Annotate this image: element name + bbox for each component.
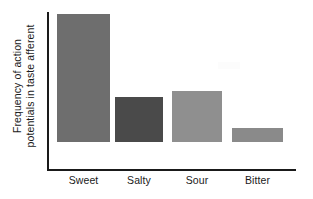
x-tick-label-salty: Salty: [115, 174, 163, 186]
bar-sour: [172, 91, 222, 142]
bar-sweet: [57, 14, 110, 142]
bar-salty: [115, 97, 163, 142]
x-tick-label-sweet: Sweet: [57, 174, 110, 186]
x-axis-tick-labels: Sweet Salty Sour Bitter: [0, 174, 313, 194]
x-tick-label-bitter: Bitter: [232, 174, 283, 186]
x-tick-label-sour: Sour: [172, 174, 222, 186]
plot-area: [0, 0, 313, 171]
bar-bitter: [232, 128, 283, 142]
bar-chart: Frequency of action potentials in taste …: [0, 0, 313, 199]
